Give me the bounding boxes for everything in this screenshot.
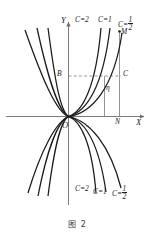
curve-label-bottom-c-half: C=12 — [112, 185, 127, 201]
curve-label-top-c-half: C=12 — [118, 16, 133, 32]
curve-label-bottom-c2-value: 2 — [85, 184, 89, 193]
curve-label-bottom-c-half-prefix: C= — [112, 189, 122, 198]
curve-label-bottom-c1-prefix: C= — [93, 187, 103, 196]
y-axis-label: Y — [61, 16, 66, 25]
curve-label-top-c1-prefix: C= — [98, 15, 108, 24]
curve-label-bottom-c2-prefix: C= — [75, 184, 85, 193]
label-eta: η — [106, 84, 110, 92]
x-axis-label: X — [136, 118, 141, 127]
plot-canvas — [0, 0, 155, 241]
curve-label-top-c2: C=2 — [75, 16, 89, 24]
fraction-one-half-bottom: 12 — [122, 185, 127, 201]
fraction-denominator-top: 2 — [128, 24, 133, 32]
origin-label: O — [62, 121, 68, 130]
curve-label-top-c1-value: 1 — [108, 15, 112, 24]
curve-label-top-c1: C=1 — [98, 16, 112, 24]
curve-label-bottom-c1: C=1 — [93, 188, 107, 196]
point-label-b: B — [57, 70, 62, 78]
curve-label-top-c-half-prefix: C= — [118, 20, 128, 29]
fraction-one-half-top: 12 — [128, 16, 133, 32]
point-label-c: C — [123, 70, 128, 78]
curve-label-top-c2-prefix: C= — [75, 15, 85, 24]
curve-lower-right-c1 — [69, 117, 107, 193]
curve-label-bottom-c2: C=2 — [75, 185, 89, 193]
point-label-n: N — [115, 118, 120, 126]
figure-caption: 图 2 — [0, 218, 155, 229]
curve-lower-right-c2 — [69, 117, 97, 194]
figure-container: Y X O M N B C η C=2 C=1 C=12 C=2 C=1 C=1… — [0, 0, 155, 241]
curve-upper-right-c2 — [69, 28, 102, 117]
curve-upper-right-c1 — [69, 28, 111, 117]
curve-upper-right-c-half — [69, 33, 123, 117]
curve-label-bottom-c1-value: 1 — [103, 187, 107, 196]
curve-upper-left-c1 — [37, 28, 69, 117]
fraction-denominator-bottom: 2 — [122, 193, 127, 201]
curve-label-top-c2-value: 2 — [85, 15, 89, 24]
